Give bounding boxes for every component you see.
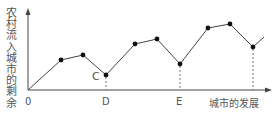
point-c-label: C [92,70,100,83]
y-axis-label: 农村流入城市的剩余 [4,8,18,109]
dashed-drop-lines [106,49,253,90]
data-point [251,45,256,50]
y-axis-arrow-icon [26,8,31,15]
x-tick-e: E [176,96,182,107]
data-markers [59,22,256,78]
x-axis-arrow-icon [265,88,272,93]
data-point [104,73,109,78]
data-point [178,62,183,67]
data-point [59,58,64,63]
x-tick-d: D [102,96,110,107]
x-axis-label: 城市的发展 [209,95,259,110]
data-point [81,53,86,58]
data-point [155,37,160,42]
data-point [206,26,211,31]
origin-label: 0 [25,96,31,107]
data-point [228,22,233,27]
data-point [133,42,138,47]
series-line [28,24,264,90]
